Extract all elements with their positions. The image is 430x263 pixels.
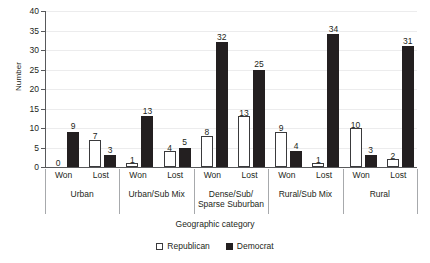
bar-chart: Number 0510152025303540 0973113458321325… xyxy=(0,0,430,263)
bar-value-label: 8 xyxy=(204,128,209,137)
bar-value-label: 0 xyxy=(56,159,61,168)
bar-value-label: 13 xyxy=(239,109,248,118)
plot-area: 0510152025303540 09731134583213259413410… xyxy=(45,11,417,168)
bar-value-label: 3 xyxy=(108,146,113,155)
bar-value-label: 4 xyxy=(167,144,172,153)
bar-group: 832 xyxy=(194,11,231,167)
bar-democrat: 34 xyxy=(327,34,339,167)
bar-republican: 7 xyxy=(89,140,101,167)
category-separator xyxy=(119,169,120,214)
bar-value-label: 31 xyxy=(403,37,412,46)
y-tick-mark xyxy=(41,167,45,168)
bar-value-label: 2 xyxy=(390,152,395,161)
bar-value-label: 1 xyxy=(316,156,321,165)
legend-label: Democrat xyxy=(237,241,274,251)
y-tick-label: 0 xyxy=(34,163,39,172)
legend-label: Republican xyxy=(167,241,210,251)
legend: RepublicanDemocrat xyxy=(0,241,430,251)
bar-value-label: 25 xyxy=(254,60,263,69)
y-axis-title: Number xyxy=(14,37,23,117)
category-label-line: Sparse Suburban xyxy=(194,200,268,210)
category-label-line: Urban/Sub Mix xyxy=(119,190,193,200)
legend-item[interactable]: Republican xyxy=(156,241,210,251)
bar-group: 134 xyxy=(305,11,342,167)
y-tick-label: 35 xyxy=(30,26,39,35)
bar-republican: 1 xyxy=(126,163,138,167)
category-label-line: Rural/Sub Mix xyxy=(268,190,342,200)
open-square-icon xyxy=(156,243,163,250)
bar-value-label: 34 xyxy=(329,25,338,34)
bar-group: 231 xyxy=(380,11,417,167)
bar-value-label: 9 xyxy=(279,124,284,133)
bar-value-label: 13 xyxy=(143,107,152,116)
bar-republican: 10 xyxy=(350,128,362,167)
category-label: Rural/Sub Mix xyxy=(268,190,342,200)
x-axis-title: Geographic category xyxy=(0,219,430,229)
bar-value-label: 1 xyxy=(130,156,135,165)
y-tick-label: 25 xyxy=(30,65,39,74)
category-label-line: Urban xyxy=(45,190,119,200)
y-tick-label: 5 xyxy=(34,143,39,152)
bar-group: 45 xyxy=(157,11,194,167)
legend-item[interactable]: Democrat xyxy=(226,241,274,251)
bar-value-label: 10 xyxy=(351,121,360,130)
bar-republican: 2 xyxy=(387,159,399,167)
bar-group: 94 xyxy=(268,11,305,167)
bar-value-label: 3 xyxy=(368,146,373,155)
bar-value-label: 9 xyxy=(71,122,76,131)
bar-group: 1325 xyxy=(231,11,268,167)
category-label: Urban/Sub Mix xyxy=(119,190,193,200)
bar-group: 113 xyxy=(119,11,156,167)
category-label: Urban xyxy=(45,190,119,200)
bar-democrat: 9 xyxy=(67,132,79,167)
bar-republican: 4 xyxy=(164,151,176,167)
y-tick-label: 10 xyxy=(30,124,39,133)
bar-value-label: 4 xyxy=(294,142,299,151)
bar-republican: 9 xyxy=(275,132,287,167)
x-axis-line xyxy=(45,167,417,168)
category-label: Dense/Sub/Sparse Suburban xyxy=(194,190,268,209)
y-tick-label: 40 xyxy=(30,7,39,16)
bar-democrat: 5 xyxy=(179,148,191,168)
category-separator xyxy=(343,169,344,214)
category-separator xyxy=(268,169,269,214)
bar-value-label: 32 xyxy=(217,33,226,42)
bar-group: 09 xyxy=(45,11,82,167)
y-tick-label: 15 xyxy=(30,104,39,113)
bar-group: 73 xyxy=(82,11,119,167)
category-label: Rural xyxy=(343,190,417,200)
bar-group: 103 xyxy=(343,11,380,167)
category-separator xyxy=(194,169,195,214)
bar-democrat: 4 xyxy=(290,151,302,167)
bar-democrat: 31 xyxy=(402,46,414,167)
category-separator xyxy=(45,169,46,214)
bar-democrat: 25 xyxy=(253,70,265,168)
y-tick-label: 20 xyxy=(30,85,39,94)
y-tick-label: 30 xyxy=(30,46,39,55)
x-tick-label-lost: Lost xyxy=(376,171,420,180)
bar-republican: 13 xyxy=(238,116,250,167)
bar-democrat: 13 xyxy=(141,116,153,167)
bar-democrat: 3 xyxy=(365,155,377,167)
bar-republican: 1 xyxy=(312,163,324,167)
category-label-line: Rural xyxy=(343,190,417,200)
bar-democrat: 3 xyxy=(104,155,116,167)
bar-democrat: 32 xyxy=(216,42,228,167)
bar-value-label: 5 xyxy=(182,138,187,147)
filled-square-icon xyxy=(226,243,233,250)
category-separator xyxy=(417,169,418,214)
bar-republican: 8 xyxy=(201,136,213,167)
bar-value-label: 7 xyxy=(93,132,98,141)
